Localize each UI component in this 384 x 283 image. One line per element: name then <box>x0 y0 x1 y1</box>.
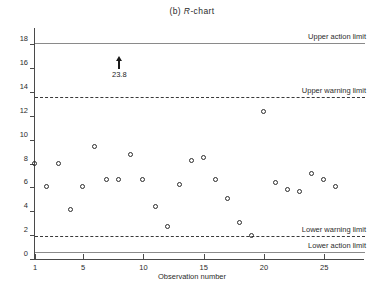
data-point <box>273 180 278 185</box>
y-tick <box>30 211 35 212</box>
data-point <box>116 177 121 182</box>
control-limit-label: Upper warning limit <box>302 86 366 95</box>
x-axis-title: Observation number <box>0 272 384 281</box>
y-tick <box>30 68 35 69</box>
data-point <box>261 109 266 114</box>
y-tick <box>30 44 35 45</box>
control-limit-label: Lower warning limit <box>302 225 366 234</box>
control-limit-label: Upper action limit <box>308 32 366 41</box>
arrow-shaft-icon <box>118 60 120 69</box>
y-tick <box>30 116 35 117</box>
data-point <box>285 187 290 192</box>
x-tick-label: 20 <box>260 263 268 272</box>
control-limit-line-solid <box>35 252 365 253</box>
control-limit-line-dashed <box>35 97 365 98</box>
data-point <box>201 155 206 160</box>
x-tick <box>83 254 84 260</box>
x-tick <box>264 254 265 260</box>
data-point <box>237 220 242 225</box>
x-tick <box>35 254 36 260</box>
data-point <box>56 161 61 166</box>
y-tick-label: 10 <box>0 130 28 139</box>
data-point <box>153 204 158 209</box>
x-tick-label: 10 <box>139 263 147 272</box>
y-tick-label: 18 <box>0 34 28 43</box>
y-tick <box>30 187 35 188</box>
data-point <box>189 158 194 163</box>
out-of-control-value: 23.8 <box>108 70 130 79</box>
y-tick-label: 14 <box>0 82 28 91</box>
r-chart-figure: (b) R-chart Sample range Observation num… <box>0 0 384 283</box>
y-tick-label: 2 <box>0 225 28 234</box>
data-point <box>333 184 338 189</box>
x-tick-label: 5 <box>81 263 85 272</box>
data-point <box>177 182 182 187</box>
y-tick <box>30 140 35 141</box>
data-point <box>44 184 49 189</box>
data-point <box>321 177 326 182</box>
data-point <box>32 161 37 166</box>
chart-title-prefix: (b) <box>169 6 183 16</box>
y-tick <box>30 92 35 93</box>
data-point <box>309 171 314 176</box>
x-tick <box>324 254 325 260</box>
x-tick-label: 1 <box>33 263 37 272</box>
y-tick-label: 0 <box>0 249 28 258</box>
x-tick <box>143 254 144 260</box>
control-limit-line-solid <box>35 43 365 44</box>
data-point <box>80 184 85 189</box>
data-point <box>68 207 73 212</box>
data-point <box>140 177 145 182</box>
y-tick-label: 6 <box>0 177 28 186</box>
chart-title-suffix: -chart <box>190 6 214 16</box>
x-tick <box>204 254 205 260</box>
x-tick-label: 25 <box>320 263 328 272</box>
y-tick-label: 4 <box>0 201 28 210</box>
y-tick-label: 12 <box>0 106 28 115</box>
data-point <box>165 224 170 229</box>
data-point <box>104 177 109 182</box>
control-limit-label: Lower action limit <box>308 241 366 250</box>
data-point <box>92 144 97 149</box>
data-point <box>249 233 254 238</box>
x-tick-label: 15 <box>200 263 208 272</box>
control-limit-line-dashed <box>35 236 365 237</box>
data-point <box>297 189 302 194</box>
chart-title: (b) R-chart <box>0 6 384 16</box>
data-point <box>128 152 133 157</box>
data-point <box>225 196 230 201</box>
data-point <box>213 177 218 182</box>
y-tick-label: 8 <box>0 154 28 163</box>
y-tick-label: 16 <box>0 58 28 67</box>
y-axis-line <box>34 28 35 260</box>
